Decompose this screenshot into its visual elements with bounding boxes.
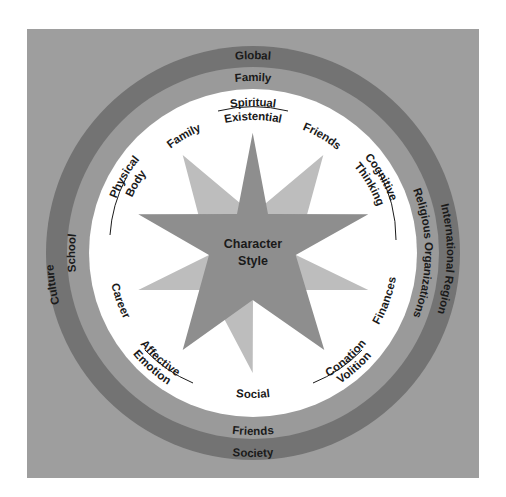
outer-ring-label-global: Global (235, 49, 272, 62)
middle-ring-label-family: Family (234, 71, 272, 84)
context-label-social: Social (236, 387, 271, 400)
character-style-diagram: Character Style Global Society Culture I… (0, 0, 506, 497)
outer-ring-label-society: Society (232, 446, 274, 459)
middle-ring-label-friends: Friends (232, 424, 274, 437)
middle-ring-label-school: School (65, 233, 78, 273)
center-label-line1: Character (224, 237, 282, 251)
center-label-line2: Style (238, 254, 268, 268)
